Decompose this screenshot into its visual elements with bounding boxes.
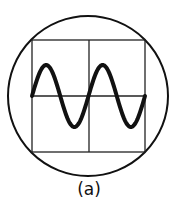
figure-label: (a) bbox=[0, 178, 178, 200]
oscilloscope-diagram bbox=[0, 0, 178, 178]
